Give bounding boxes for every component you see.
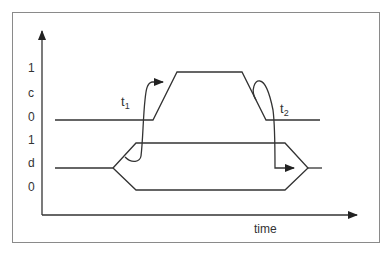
- t1-label: t1: [121, 95, 130, 111]
- axes: [42, 31, 357, 215]
- c-low-label: 0: [28, 111, 35, 123]
- d-low-label: 0: [28, 181, 35, 193]
- signal-d-waveform: [55, 143, 322, 190]
- t2-arrow: [253, 81, 294, 168]
- t2-label: t2: [280, 102, 289, 118]
- x-axis-label: time: [254, 223, 277, 235]
- d-signal-label: d: [28, 157, 35, 169]
- c-signal-label: c: [28, 87, 34, 99]
- timing-diagram: [0, 0, 389, 255]
- c-high-label: 1: [28, 62, 35, 74]
- d-high-label: 1: [28, 134, 35, 146]
